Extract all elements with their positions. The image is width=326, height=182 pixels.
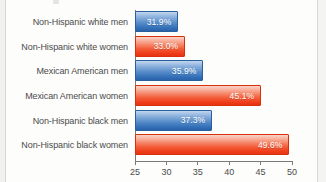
- bar-value-label: 31.9%: [147, 17, 178, 27]
- category-label: Mexican American women: [0, 84, 132, 108]
- bar-row: 45.1%: [135, 84, 292, 108]
- bar-row: 49.6%: [135, 133, 292, 157]
- page-right-margin: [318, 0, 326, 182]
- category-axis-labels: Non-Hispanic white men Non-Hispanic whit…: [0, 10, 132, 158]
- bar-mexican-american-men: 35.9%: [135, 60, 203, 81]
- bar-non-hispanic-white-men: 31.9%: [135, 11, 178, 32]
- page-right-border-line: [317, 0, 318, 182]
- bar-value-label: 33.0%: [154, 41, 185, 51]
- axis-tick: 45: [256, 161, 266, 177]
- bar-row: 35.9%: [135, 59, 292, 83]
- tick-label: 45: [256, 167, 266, 177]
- tick-mark: [166, 161, 167, 165]
- tick-label: 35: [193, 167, 203, 177]
- axis-tick: 50: [287, 161, 297, 177]
- bar-value-label: 49.6%: [258, 140, 289, 150]
- tick-mark: [260, 161, 261, 165]
- category-label: Non-Hispanic black men: [0, 109, 132, 133]
- bar-row: 33.0%: [135, 35, 292, 59]
- tick-label: 40: [224, 167, 234, 177]
- bar-mexican-american-women: 45.1%: [135, 85, 261, 106]
- tick-label: 50: [287, 167, 297, 177]
- axis-tick: 30: [161, 161, 171, 177]
- bar-row: 37.3%: [135, 109, 292, 133]
- value-axis-ticks: 25 30 35 40 45 50: [135, 161, 293, 182]
- chart-page: Non-Hispanic white men Non-Hispanic whit…: [0, 0, 326, 182]
- tick-mark: [197, 161, 198, 165]
- category-label: Non-Hispanic white men: [0, 10, 132, 34]
- plot-area: 31.9% 33.0% 35.9% 45.1% 37.3%: [135, 10, 292, 158]
- bar-non-hispanic-black-women: 49.6%: [135, 134, 289, 155]
- category-label: Non-Hispanic black women: [0, 133, 132, 157]
- bar-non-hispanic-white-women: 33.0%: [135, 36, 185, 57]
- tick-mark: [229, 161, 230, 165]
- axis-tick: 35: [193, 161, 203, 177]
- bar-rows: 31.9% 33.0% 35.9% 45.1% 37.3%: [135, 10, 292, 158]
- axis-tick: 25: [130, 161, 140, 177]
- bar-value-label: 35.9%: [172, 66, 203, 76]
- category-label: Mexican American men: [0, 59, 132, 83]
- bar-non-hispanic-black-men: 37.3%: [135, 110, 212, 131]
- tick-mark: [134, 161, 135, 165]
- tick-label: 30: [161, 167, 171, 177]
- tick-label: 25: [130, 167, 140, 177]
- category-label: Non-Hispanic white women: [0, 35, 132, 59]
- axis-tick: 40: [224, 161, 234, 177]
- scan-artifact: [53, 0, 59, 4]
- bar-value-label: 45.1%: [230, 91, 261, 101]
- tick-mark: [291, 161, 292, 165]
- bar-row: 31.9%: [135, 10, 292, 34]
- bar-value-label: 37.3%: [181, 115, 212, 125]
